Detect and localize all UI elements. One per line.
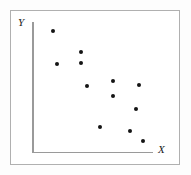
x-axis-line [32, 152, 153, 154]
data-point [141, 139, 145, 143]
y-axis-line [32, 22, 34, 153]
y-axis-label: Y [18, 17, 24, 28]
data-point [134, 107, 138, 111]
data-point [79, 61, 83, 65]
data-point [55, 62, 59, 66]
data-point [51, 29, 55, 33]
plot-area: Y X [0, 0, 191, 175]
data-point [79, 50, 83, 54]
x-axis-label: X [158, 144, 165, 155]
data-point [111, 94, 115, 98]
data-point [111, 79, 115, 83]
data-point [98, 125, 102, 129]
data-point [85, 84, 89, 88]
data-point [128, 129, 132, 133]
data-point [137, 83, 141, 87]
scatter-plot-figure: Y X [0, 0, 191, 175]
